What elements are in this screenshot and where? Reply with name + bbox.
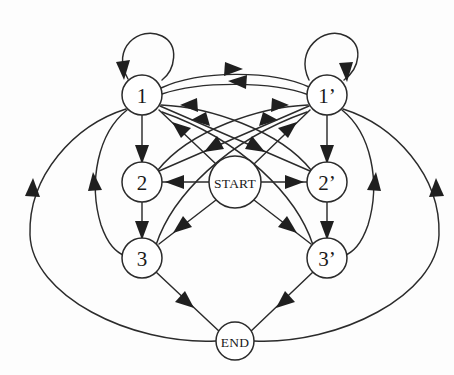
node-end[interactable]: END	[216, 322, 254, 360]
arrowhead	[228, 75, 247, 89]
node-start[interactable]: START	[209, 156, 261, 208]
arrowhead	[172, 122, 191, 138]
node-n2p[interactable]: 2’	[307, 162, 347, 202]
arrowhead	[116, 60, 130, 80]
arrowhead	[165, 175, 184, 189]
arrowhead	[339, 62, 353, 82]
edge-start-n3	[159, 200, 216, 244]
arrowhead	[367, 172, 381, 191]
node-n3[interactable]: 3	[122, 238, 162, 278]
edge-n1-n3	[88, 110, 127, 256]
arrowhead	[320, 221, 334, 240]
edge-n1-self-loop	[116, 33, 174, 80]
edge-n1p-n3p	[342, 110, 381, 256]
diagram-canvas: 1 1’ 2 2’ 3 3’	[0, 0, 454, 375]
node-n2[interactable]: 2	[122, 162, 162, 202]
arrowhead	[245, 136, 265, 152]
arrowhead	[271, 98, 289, 112]
arrowhead	[278, 216, 297, 233]
arrowhead	[173, 216, 192, 233]
arrowhead	[88, 172, 102, 191]
arrowhead	[135, 221, 149, 240]
node-n1p[interactable]: 1’	[307, 75, 347, 115]
arrowhead	[285, 175, 304, 189]
edge-n3-end	[156, 272, 221, 333]
edge-start-n2	[162, 175, 209, 189]
arrowhead	[278, 122, 297, 138]
node-n1[interactable]: 1	[122, 75, 162, 115]
edge-n2-n3	[135, 202, 149, 240]
arrowhead	[204, 136, 224, 152]
arrowhead	[135, 145, 149, 164]
arrowhead	[180, 98, 198, 112]
edge-n3p-end	[249, 272, 313, 333]
edge-n2p-n3p	[320, 202, 334, 240]
arrowhead	[276, 291, 295, 308]
node-layer: 1 1’ 2 2’ 3 3’	[122, 75, 347, 360]
edge-n1p-self-loop	[305, 33, 358, 82]
edge-n1p-n1-top	[162, 75, 309, 95]
arrowhead	[429, 178, 444, 197]
state-transition-graph: 1 1’ 2 2’ 3 3’	[0, 0, 454, 375]
edge-n1p-n2p	[320, 115, 334, 164]
arrowhead	[25, 178, 40, 197]
edge-n1-n2	[135, 115, 149, 164]
arrowhead	[320, 145, 334, 164]
node-n3p[interactable]: 3’	[307, 238, 347, 278]
arrowhead	[175, 291, 194, 308]
